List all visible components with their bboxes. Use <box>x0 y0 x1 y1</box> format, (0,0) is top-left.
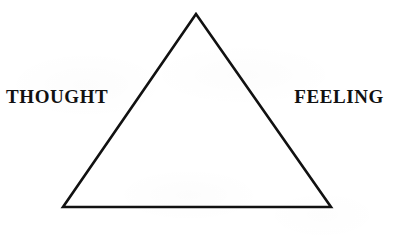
triangle-shape <box>0 0 393 250</box>
diagram-canvas: THOUGHT FEELING <box>0 0 393 250</box>
label-feeling: FEELING <box>294 87 384 106</box>
label-thought: THOUGHT <box>6 87 108 106</box>
triangle-outline <box>63 14 331 207</box>
